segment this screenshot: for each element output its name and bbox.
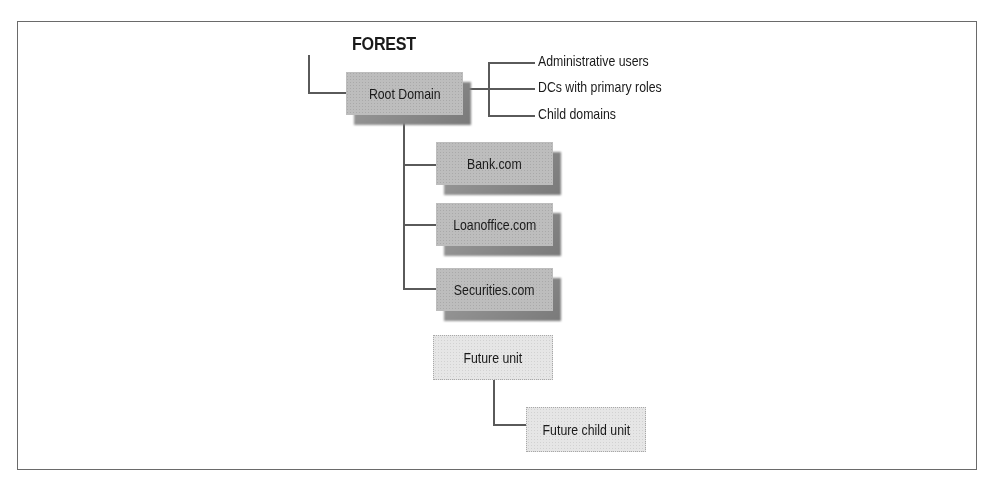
- attribute-administrative-users: Administrative users: [538, 52, 649, 69]
- loanoffice-connector: [403, 224, 436, 226]
- attribute-tick-3: [488, 115, 535, 117]
- loanoffice-label: Loanoffice.com: [453, 216, 536, 233]
- bank-label: Bank.com: [467, 155, 522, 172]
- loanoffice-node[interactable]: Loanoffice.com: [436, 203, 553, 246]
- future-unit-node[interactable]: Future unit: [433, 335, 553, 380]
- forest-connector-vertical: [308, 55, 310, 93]
- future-child-unit-label: Future child unit: [542, 421, 630, 438]
- forest-connector-horizontal: [308, 92, 346, 94]
- children-trunk: [403, 115, 405, 289]
- root-domain-node[interactable]: Root Domain: [346, 72, 463, 115]
- forest-title: FOREST: [352, 33, 416, 55]
- future-child-unit-node[interactable]: Future child unit: [526, 407, 646, 452]
- root-domain-label: Root Domain: [369, 85, 441, 102]
- attribute-dcs-primary-roles: DCs with primary roles: [538, 78, 662, 95]
- attribute-child-domains: Child domains: [538, 105, 616, 122]
- securities-connector: [403, 288, 436, 290]
- future-unit-label: Future unit: [464, 349, 523, 366]
- securities-label: Securities.com: [454, 281, 535, 298]
- securities-node[interactable]: Securities.com: [436, 268, 553, 311]
- future-child-connector-vertical: [493, 380, 495, 425]
- attribute-tick-1: [488, 62, 535, 64]
- bank-connector: [403, 164, 436, 166]
- future-child-connector-horizontal: [493, 424, 526, 426]
- attribute-tick-2: [488, 88, 535, 90]
- bank-node[interactable]: Bank.com: [436, 142, 553, 185]
